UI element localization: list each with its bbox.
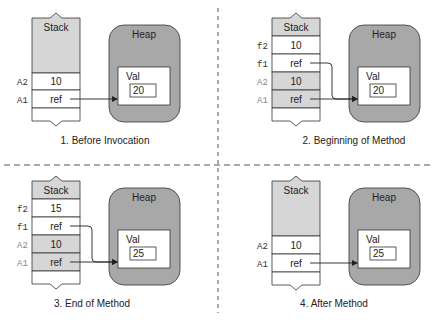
panel-beginning-of-method: Stack 10 ref 10 ref f2 f1 A2 A1 Heap Val…	[257, 13, 420, 146]
variable-name: A2	[257, 78, 268, 88]
heap: Heap Val 20	[349, 25, 420, 122]
panel-after-method: Stack 10 ref A2 A1 Heap Val 25 4. After …	[257, 176, 420, 309]
heap-label: Heap	[132, 192, 156, 203]
stack-value: ref	[50, 94, 62, 105]
stack: Stack 10 ref 10 ref f2 f1 A2 A1	[257, 13, 320, 126]
panel-caption: 2. Beginning of Method	[303, 135, 406, 146]
heap: Heap Val 20	[109, 25, 180, 122]
variable-name: A1	[17, 259, 28, 269]
stack-label: Stack	[283, 22, 309, 33]
stack-label: Stack	[43, 22, 69, 33]
object-label: Val	[126, 71, 140, 82]
variable-name: f2	[257, 42, 268, 52]
panel-end-of-method: Stack 15 ref 10 ref f2 f1 A2 A1 Heap Val…	[17, 176, 180, 309]
stack-value: 10	[290, 76, 302, 87]
heap-label: Heap	[132, 29, 156, 40]
stack: Stack 10 ref A2 A1	[17, 13, 80, 126]
stack-value: 10	[50, 76, 62, 87]
heap-label: Heap	[372, 192, 396, 203]
variable-name: A2	[257, 242, 268, 252]
heap: Heap Val 25	[109, 188, 180, 285]
stack-value: ref	[290, 94, 302, 105]
variable-name: A2	[17, 78, 28, 88]
diagram-canvas: Stack 10 ref A2 A1 Heap Val 20 1. Before…	[0, 0, 434, 321]
object-value: 20	[133, 85, 145, 96]
stack-label: Stack	[283, 185, 309, 196]
variable-name: f2	[17, 205, 28, 215]
stack-value: 10	[50, 239, 62, 250]
stack: Stack 10 ref A2 A1	[257, 176, 320, 290]
stack-value: 10	[290, 240, 302, 251]
stack-value: 10	[290, 40, 302, 51]
heap: Heap Val 25	[349, 188, 420, 285]
object-label: Val	[366, 234, 380, 245]
stack-value: ref	[290, 258, 302, 269]
variable-name: f1	[17, 223, 28, 233]
variable-name: A2	[17, 241, 28, 251]
stack-value: ref	[290, 58, 302, 69]
stack-label: Stack	[43, 185, 69, 196]
object-label: Val	[366, 71, 380, 82]
heap-label: Heap	[372, 29, 396, 40]
object-value: 25	[373, 248, 385, 259]
stack-value: ref	[50, 257, 62, 268]
variable-name: f1	[257, 60, 268, 70]
variable-name: A1	[257, 96, 268, 106]
object-label: Val	[126, 234, 140, 245]
variable-name: A1	[257, 260, 268, 270]
object-value: 20	[373, 85, 385, 96]
variable-name: A1	[17, 96, 28, 106]
panel-caption: 3. End of Method	[54, 298, 130, 309]
panel-caption: 1. Before Invocation	[61, 135, 150, 146]
stack-value: ref	[50, 221, 62, 232]
object-value: 25	[133, 248, 145, 259]
stack-value: 15	[50, 203, 62, 214]
panel-caption: 4. After Method	[300, 298, 368, 309]
panel-before-invocation: Stack 10 ref A2 A1 Heap Val 20 1. Before…	[17, 13, 180, 146]
stack: Stack 15 ref 10 ref f2 f1 A2 A1	[17, 176, 80, 289]
